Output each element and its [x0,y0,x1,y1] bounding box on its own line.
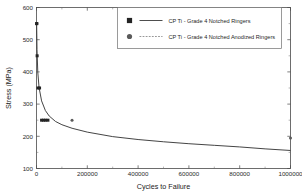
sn-curve-chart: 1002003004005006000200000400000600000800… [0,0,302,193]
x-tick-label: 600000 [179,170,200,177]
data-point-marker [289,136,292,139]
legend-label: CP Ti - Grade 4 Notched Anodized Ringers [169,34,276,40]
legend-box [118,8,282,49]
y-tick-label: 200 [23,133,34,140]
data-point-marker [36,54,39,57]
x-tick-label: 0 [35,170,39,177]
y-tick-label: 400 [23,68,34,75]
data-point-marker [35,22,38,25]
legend-marker-square [127,18,132,23]
data-point-marker [71,119,74,122]
y-axis-title: Stress (MPa) [4,67,13,109]
chart-figure: 1002003004005006000200000400000600000800… [0,0,302,193]
x-tick-label: 1000000 [278,170,302,177]
legend-label: CP Ti - Grade 4 Notched Ringers [169,18,251,24]
y-tick-label: 100 [23,165,34,172]
x-tick-label: 800000 [229,170,250,177]
y-tick-label: 300 [23,100,34,107]
data-point-marker [46,119,49,122]
x-tick-label: 400000 [128,170,149,177]
y-tick-label: 600 [23,4,34,11]
legend-marker-circle [127,34,132,39]
x-tick-label: 200000 [77,170,98,177]
data-point-marker [38,87,41,90]
x-axis-title: Cycles to Failure [137,182,191,191]
y-tick-label: 500 [23,36,34,43]
